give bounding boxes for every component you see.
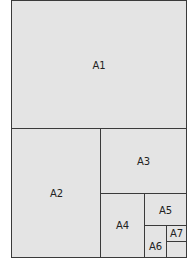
label-a3: A3 bbox=[137, 156, 150, 167]
paper-sheet-a0: A1 A2 A3 A4 A5 A6 A7 bbox=[11, 0, 187, 258]
label-a4: A4 bbox=[116, 220, 129, 231]
region-a1: A1 bbox=[11, 0, 187, 130]
label-a6: A6 bbox=[149, 241, 162, 252]
label-a2: A2 bbox=[50, 188, 63, 199]
region-a4: A4 bbox=[100, 193, 145, 258]
label-a7: A7 bbox=[170, 228, 183, 239]
label-a1: A1 bbox=[92, 60, 105, 71]
region-a5: A5 bbox=[144, 193, 187, 227]
region-a3: A3 bbox=[100, 128, 187, 195]
region-a8 bbox=[166, 241, 187, 258]
region-a6: A6 bbox=[144, 225, 167, 258]
region-a2: A2 bbox=[11, 128, 102, 258]
label-a5: A5 bbox=[159, 205, 172, 216]
region-a7: A7 bbox=[166, 225, 187, 242]
